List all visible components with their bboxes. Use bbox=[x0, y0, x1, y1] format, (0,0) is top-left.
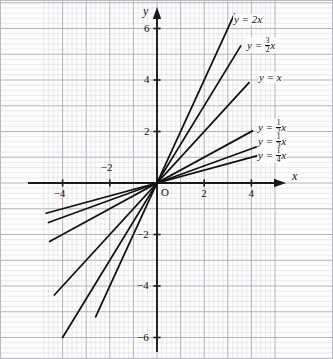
equation-label-0: y = 2x bbox=[233, 14, 263, 25]
equation-label-5: y = 14x bbox=[257, 147, 287, 163]
y-axis-label: y bbox=[143, 5, 148, 17]
y-tick-label-6: 6 bbox=[144, 23, 150, 34]
y-tick-label-4: 4 bbox=[144, 74, 150, 85]
graph-figure: −4−224−6−4−2246xyOy = 2xy = 32xy = xy = … bbox=[0, 0, 333, 359]
y-tick-label-neg6: −6 bbox=[137, 332, 149, 343]
x-axis-label: x bbox=[292, 170, 297, 182]
origin-label: O bbox=[161, 187, 169, 198]
x-tick-label-neg4: −4 bbox=[54, 188, 66, 199]
y-tick-label-neg2: −2 bbox=[137, 229, 149, 240]
equation-label-1: y = 32x bbox=[246, 37, 276, 53]
coordinate-plane bbox=[0, 0, 333, 359]
x-tick-label-neg2: −2 bbox=[101, 162, 113, 173]
equation-label-2: y = x bbox=[258, 72, 283, 83]
y-tick-label-neg4: −4 bbox=[137, 280, 149, 291]
y-tick-label-2: 2 bbox=[144, 126, 150, 137]
x-tick-label-4: 4 bbox=[248, 188, 254, 199]
x-tick-label-2: 2 bbox=[201, 188, 207, 199]
